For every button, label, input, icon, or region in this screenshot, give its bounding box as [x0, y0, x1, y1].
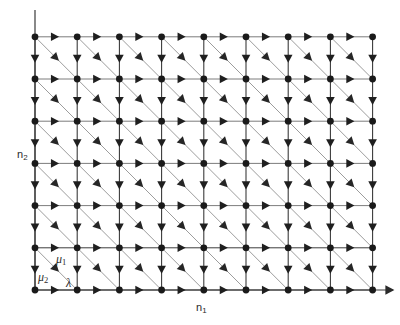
lattice-node — [285, 118, 292, 125]
vertical-arrowhead — [115, 55, 124, 63]
vertical-arrowhead — [115, 97, 124, 105]
lattice-node — [200, 76, 207, 83]
horizontal-arrowhead — [220, 201, 228, 210]
x-axis-label: n1 — [196, 301, 207, 315]
vertical-arrowhead — [199, 55, 208, 63]
horizontal-arrowhead — [304, 32, 312, 41]
lattice-node — [369, 160, 376, 167]
horizontal-arrowhead — [93, 117, 101, 126]
lattice-node — [32, 160, 39, 167]
vertical-arrowhead — [368, 97, 377, 105]
lattice-node — [285, 202, 292, 209]
lattice-node — [200, 160, 207, 167]
lattice-node — [369, 76, 376, 83]
horizontal-arrowhead — [304, 243, 312, 252]
lattice-node — [243, 244, 250, 251]
vertical-arrowhead — [199, 224, 208, 232]
vertical-arrowhead — [326, 266, 335, 274]
lattice-node — [200, 118, 207, 125]
horizontal-arrowhead — [135, 243, 143, 252]
horizontal-arrowhead — [135, 117, 143, 126]
lattice-node — [116, 76, 123, 83]
horizontal-arrowhead — [304, 286, 312, 295]
horizontal-arrowhead — [135, 159, 143, 168]
vertical-arrowhead — [284, 55, 293, 63]
horizontal-arrowhead — [51, 286, 59, 295]
horizontal-arrowhead — [93, 243, 101, 252]
vertical-arrowhead — [368, 181, 377, 189]
lattice-node — [116, 160, 123, 167]
vertical-arrowhead — [284, 224, 293, 232]
x-axis-label-sub: 1 — [202, 306, 207, 315]
horizontal-arrowhead — [51, 159, 59, 168]
horizontal-arrowhead — [304, 117, 312, 126]
lattice-node — [158, 118, 165, 125]
edge-label-lambda: λ — [66, 276, 71, 291]
lattice-node — [116, 287, 123, 294]
horizontal-arrowhead — [346, 286, 354, 295]
horizontal-arrowhead — [346, 32, 354, 41]
vertical-arrowhead — [284, 266, 293, 274]
horizontal-arrowhead — [262, 32, 270, 41]
horizontal-arrowhead — [220, 243, 228, 252]
lattice-node — [243, 287, 250, 294]
vertical-arrowhead — [115, 139, 124, 147]
horizontal-arrowhead — [262, 159, 270, 168]
vertical-arrowhead — [115, 224, 124, 232]
horizontal-arrowhead — [220, 117, 228, 126]
vertical-arrowhead — [284, 97, 293, 105]
vertical-arrowhead — [242, 97, 251, 105]
lattice-node — [369, 244, 376, 251]
y-axis-label-sub: 2 — [23, 153, 28, 162]
lattice-node — [74, 287, 81, 294]
lattice-node — [243, 33, 250, 40]
horizontal-arrowhead — [304, 75, 312, 84]
horizontal-arrowhead — [220, 75, 228, 84]
vertical-arrowhead — [326, 181, 335, 189]
vertical-arrowhead — [115, 181, 124, 189]
vertical-arrowhead — [157, 55, 166, 63]
horizontal-arrowhead — [93, 32, 101, 41]
lattice-node — [158, 202, 165, 209]
lattice-node — [285, 33, 292, 40]
horizontal-arrowhead — [178, 159, 186, 168]
horizontal-arrowhead — [262, 243, 270, 252]
lattice-node — [116, 202, 123, 209]
lattice-figure: n2 n1 μ1 μ2 λ — [0, 0, 400, 325]
lattice-node — [327, 33, 334, 40]
horizontal-arrowhead — [178, 75, 186, 84]
vertical-arrowhead — [31, 97, 40, 105]
lattice-diagram-canvas — [0, 0, 400, 325]
lattice-node — [285, 287, 292, 294]
vertical-arrowhead — [31, 139, 40, 147]
horizontal-arrowhead — [346, 75, 354, 84]
lattice-node — [243, 76, 250, 83]
lattice-node — [32, 118, 39, 125]
vertical-arrowhead — [242, 224, 251, 232]
edge-label-mu1: μ1 — [56, 252, 66, 267]
horizontal-arrowhead — [93, 159, 101, 168]
vertical-arrowhead — [368, 224, 377, 232]
horizontal-arrowhead — [178, 286, 186, 295]
lattice-node — [116, 244, 123, 251]
horizontal-arrowhead — [93, 75, 101, 84]
horizontal-arrowhead — [178, 201, 186, 210]
lattice-node — [158, 76, 165, 83]
vertical-arrowhead — [73, 224, 82, 232]
vertical-arrowhead — [284, 181, 293, 189]
vertical-arrowhead — [31, 181, 40, 189]
vertical-arrowhead — [368, 266, 377, 274]
edge-label-mu1-sub: 1 — [62, 257, 66, 267]
vertical-arrowhead — [242, 266, 251, 274]
lattice-node — [285, 244, 292, 251]
lattice-node — [158, 160, 165, 167]
lattice-node — [32, 202, 39, 209]
horizontal-arrowhead — [51, 117, 59, 126]
horizontal-arrowhead — [346, 117, 354, 126]
lattice-node — [200, 33, 207, 40]
lattice-node — [32, 76, 39, 83]
horizontal-arrowhead — [178, 243, 186, 252]
vertical-arrowhead — [157, 181, 166, 189]
vertical-arrowhead — [368, 139, 377, 147]
vertical-arrowhead — [199, 266, 208, 274]
